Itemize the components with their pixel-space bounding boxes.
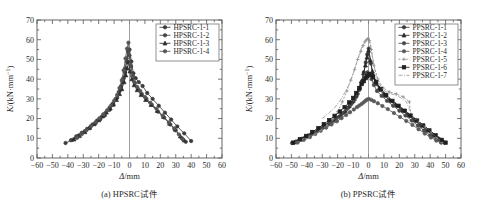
x-tick-label: −30 xyxy=(77,161,90,170)
series-line xyxy=(298,99,441,143)
x-tick-label: 0 xyxy=(367,161,371,170)
x-tick-label: 30 xyxy=(172,161,180,170)
y-tick-label: 30 xyxy=(265,95,273,104)
y-tick-label: 20 xyxy=(265,114,273,123)
x-tick-label: 30 xyxy=(411,161,419,170)
y-tick-label: 70 xyxy=(265,16,273,25)
x-tick-label: −40 xyxy=(301,161,314,170)
x-tick-label: 0 xyxy=(128,161,132,170)
chart-b-root: −60−50−40−30−20−100102030405060010203040… xyxy=(244,16,465,199)
x-tick-label: 50 xyxy=(442,161,450,170)
series-markers xyxy=(296,97,443,144)
y-tick-label: 10 xyxy=(265,134,273,143)
x-tick-label: −20 xyxy=(92,161,105,170)
y-tick-label: 50 xyxy=(26,55,34,64)
y-tick-label: 60 xyxy=(265,36,273,45)
legend-item-label: PPSRC-1-7 xyxy=(413,71,448,80)
x-tick-label: 40 xyxy=(187,161,195,170)
y-tick-label: 40 xyxy=(265,75,273,84)
legend: HPSRC-1-1HPSRC-1-2HPSRC-1-3HPSRC-1-4 xyxy=(156,23,219,62)
legend: PPSRC-1-1PPSRC-1-2PPSRC-1-3PPSRC-1-4PPSR… xyxy=(395,23,458,86)
y-tick-label: 20 xyxy=(26,114,34,123)
y-tick-label: 30 xyxy=(26,95,34,104)
x-tick-label: 20 xyxy=(156,161,164,170)
x-axis-title: Δ/mm xyxy=(357,171,379,181)
y-tick-label: 0 xyxy=(269,154,273,163)
panel-b-ppsrc: −60−50−40−30−20−100102030405060010203040… xyxy=(239,0,478,206)
chart-a-svg: −60−50−40−30−20−100102030405060010203040… xyxy=(0,0,239,206)
chart-b-svg: −60−50−40−30−20−100102030405060010203040… xyxy=(239,0,478,206)
y-tick-label: 50 xyxy=(265,55,273,64)
chart-a-root: −60−50−40−30−20−100102030405060010203040… xyxy=(5,16,226,199)
panel-caption: (a) HPSRC试件 xyxy=(101,189,158,199)
x-tick-label: −20 xyxy=(331,161,344,170)
x-tick-label: −30 xyxy=(316,161,329,170)
x-tick-label: −50 xyxy=(285,161,298,170)
y-tick-label: 10 xyxy=(26,134,34,143)
x-tick-label: 10 xyxy=(141,161,149,170)
y-tick-label: 40 xyxy=(26,75,34,84)
x-tick-label: 60 xyxy=(218,161,226,170)
x-tick-label: 60 xyxy=(457,161,465,170)
svg-text:Δ/mm: Δ/mm xyxy=(118,171,140,181)
legend-item-label: HPSRC-1-4 xyxy=(174,47,210,56)
x-axis-title: Δ/mm xyxy=(118,171,140,181)
x-tick-label: −50 xyxy=(46,161,59,170)
svg-text:Δ/mm: Δ/mm xyxy=(357,171,379,181)
svg-text:K/(kN·mm−1): K/(kN·mm−1) xyxy=(244,66,254,114)
x-tick-label: 20 xyxy=(395,161,403,170)
panel-a-hpsrc: −60−50−40−30−20−100102030405060010203040… xyxy=(0,0,239,206)
series-PPSRC-1-4 xyxy=(296,97,443,144)
y-axis-title: K/(kN·mm−1) xyxy=(244,66,254,114)
y-axis-title: K/(kN·mm−1) xyxy=(5,66,15,114)
y-tick-label: 0 xyxy=(30,154,34,163)
x-tick-label: 10 xyxy=(380,161,388,170)
x-tick-label: −40 xyxy=(62,161,75,170)
x-tick-label: −10 xyxy=(347,161,360,170)
x-tick-label: 50 xyxy=(203,161,211,170)
panel-caption: (b) PPSRC试件 xyxy=(341,189,397,199)
y-tick-label: 70 xyxy=(26,16,34,25)
svg-text:K/(kN·mm−1): K/(kN·mm−1) xyxy=(5,66,15,114)
y-tick-label: 60 xyxy=(26,36,34,45)
x-tick-label: −10 xyxy=(108,161,121,170)
x-tick-label: 40 xyxy=(426,161,434,170)
figure-container: −60−50−40−30−20−100102030405060010203040… xyxy=(0,0,478,206)
